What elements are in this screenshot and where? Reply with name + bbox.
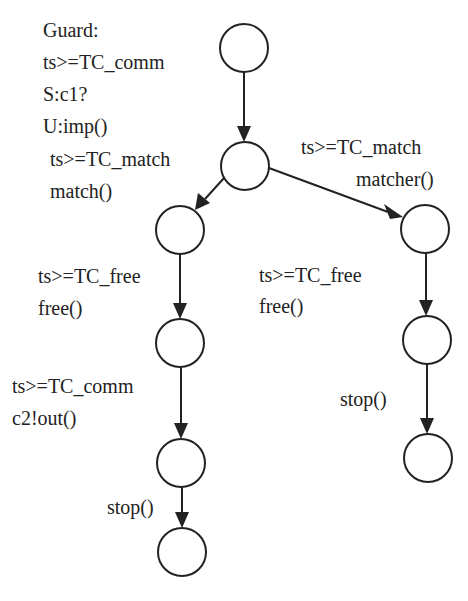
edge-label-s0-s1-update: U:imp() [43, 115, 107, 138]
state-node-s2[interactable] [156, 206, 204, 254]
edge-labels: Guard: ts>=TC_comm S:c1? U:imp() ts>=TC_… [12, 19, 434, 519]
state-node-s7[interactable] [404, 434, 452, 482]
edge-label-s3-s5-action: free() [259, 295, 303, 318]
arrowhead-icon [175, 512, 189, 528]
arrowhead-icon [174, 423, 188, 439]
edge-label-s1-s2-guard: ts>=TC_match [50, 148, 170, 170]
arrowhead-icon [237, 126, 251, 142]
state-diagram: Guard: ts>=TC_comm S:c1? U:imp() ts>=TC_… [0, 0, 468, 601]
edge-label-s1-s3-action: matcher() [356, 168, 434, 191]
state-node-s0[interactable] [220, 24, 268, 72]
arrowhead-icon [420, 418, 434, 434]
nodes [156, 24, 452, 576]
edge-label-s3-s5-guard: ts>=TC_free [259, 264, 362, 286]
arrowhead-icon [419, 300, 433, 316]
edge-label-s2-s4-guard: ts>=TC_free [38, 265, 141, 287]
edge-label-s0-s1-sync: S:c1? [43, 83, 88, 105]
edge-label-s1-s2-action: match() [50, 180, 112, 203]
edge-label-s0-s1-guard: ts>=TC_comm [43, 51, 165, 73]
state-node-s4[interactable] [156, 319, 204, 367]
state-node-s8[interactable] [158, 528, 206, 576]
edge-label-s2-s4-action: free() [38, 297, 82, 320]
state-node-s1[interactable] [221, 142, 269, 190]
edge-label-s6-s8-action: stop() [107, 496, 154, 519]
edge-label-s1-s3-guard: ts>=TC_match [301, 136, 421, 158]
state-node-s6[interactable] [157, 439, 205, 487]
arrowhead-icon [173, 303, 187, 319]
state-node-s5[interactable] [403, 316, 451, 364]
guard-title: Guard: [43, 19, 99, 41]
edge-label-s4-s6-action: c2!out() [12, 407, 76, 430]
state-node-s3[interactable] [401, 205, 449, 253]
edge-label-s5-s7-action: stop() [340, 388, 387, 411]
edge-label-s4-s6-guard: ts>=TC_comm [12, 375, 134, 397]
edge-s1-s2 [205, 178, 224, 199]
